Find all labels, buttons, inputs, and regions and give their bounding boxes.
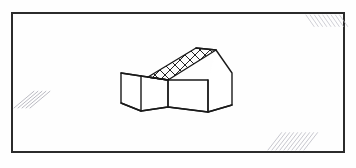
figure-root: Axonometric sketch of a gable-roofed hou… <box>0 0 356 168</box>
wing-front-wall-fill <box>141 76 168 111</box>
line-drawing-canvas <box>0 0 356 168</box>
